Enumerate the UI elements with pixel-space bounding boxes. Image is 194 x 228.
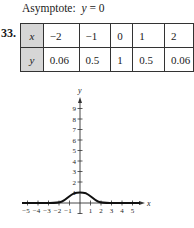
svg-text:9: 9 xyxy=(73,105,77,113)
svg-text:4: 4 xyxy=(120,207,124,215)
svg-text:−4: −4 xyxy=(33,207,41,215)
svg-text:6: 6 xyxy=(73,137,77,145)
svg-text:8: 8 xyxy=(73,116,77,124)
svg-text:5: 5 xyxy=(131,207,135,215)
svg-text:7: 7 xyxy=(73,126,77,134)
svg-text:2: 2 xyxy=(99,207,103,215)
y-axis-label: y xyxy=(77,86,82,95)
graph: x y −5 −4 −3 −2 −1 1 2 3 4 5 xyxy=(0,0,194,228)
svg-text:5: 5 xyxy=(73,147,77,155)
y-axis-arrow-icon xyxy=(78,97,82,103)
svg-text:1: 1 xyxy=(89,207,93,215)
svg-text:−1: −1 xyxy=(64,207,72,215)
y-tick-labels: 1 2 3 4 5 6 7 8 9 xyxy=(73,105,77,197)
svg-text:2: 2 xyxy=(73,179,77,187)
svg-text:−2: −2 xyxy=(54,207,62,215)
svg-text:3: 3 xyxy=(73,168,77,176)
svg-text:−3: −3 xyxy=(43,207,51,215)
svg-text:3: 3 xyxy=(110,207,114,215)
svg-text:4: 4 xyxy=(73,158,77,166)
svg-text:−5: −5 xyxy=(22,207,30,215)
y-axis: y xyxy=(77,86,82,214)
x-axis-label: x xyxy=(146,199,151,208)
